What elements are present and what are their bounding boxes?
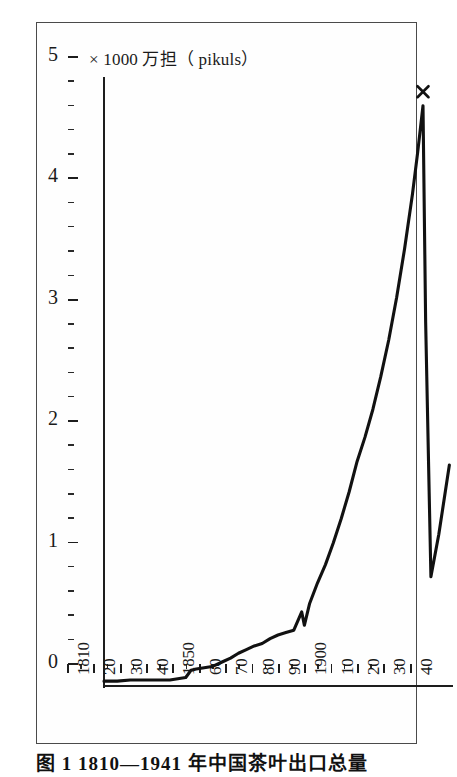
y-axis-minor-tick bbox=[68, 105, 74, 107]
y-axis-minor-tick bbox=[68, 80, 74, 82]
y-axis-minor-tick bbox=[68, 444, 74, 446]
chart-title: × 1000 万担（ pikuls） bbox=[89, 45, 259, 70]
y-axis-minor-tick bbox=[68, 614, 74, 616]
y-axis-major-tick bbox=[68, 542, 78, 544]
x-axis-line bbox=[103, 685, 453, 687]
x-axis-tick-label: 30 bbox=[127, 659, 147, 675]
data-series-line bbox=[104, 106, 449, 681]
x-axis-tick-label: 20 bbox=[364, 659, 384, 675]
y-axis-tick-label: 5 bbox=[28, 43, 58, 66]
y-axis-minor-tick bbox=[68, 202, 74, 204]
y-axis-minor-tick bbox=[68, 372, 74, 374]
annotation-markers bbox=[418, 86, 429, 97]
x-axis-tick-label: 60 bbox=[206, 659, 226, 675]
x-axis-tick-label: 40 bbox=[153, 659, 173, 675]
x-axis-tick-label: 40 bbox=[417, 659, 437, 675]
y-axis-minor-tick bbox=[68, 396, 74, 398]
x-axis-tick-label: 1850 bbox=[179, 642, 199, 675]
x-axis-tick-label: 20 bbox=[100, 659, 120, 675]
y-axis-tick-label: 2 bbox=[28, 407, 58, 430]
x-axis-tick-label: 80 bbox=[259, 659, 279, 675]
y-axis-major-tick bbox=[68, 420, 78, 422]
y-axis-minor-tick bbox=[68, 153, 74, 155]
y-axis-minor-tick bbox=[68, 129, 74, 131]
x-axis-tick-label: 1810 bbox=[74, 642, 94, 675]
y-axis-tick-label: 3 bbox=[28, 286, 58, 309]
y-axis-minor-tick bbox=[68, 469, 74, 471]
peak-marker-x-icon bbox=[418, 86, 429, 97]
figure-caption: 图 1 1810—1941 年中国茶叶出口总量 bbox=[36, 748, 432, 775]
y-axis-minor-tick bbox=[68, 323, 74, 325]
y-axis-minor-tick bbox=[68, 275, 74, 277]
y-axis-tick-label: 1 bbox=[28, 529, 58, 552]
y-axis-minor-tick bbox=[68, 639, 74, 641]
y-axis-minor-tick bbox=[68, 493, 74, 495]
y-axis-major-tick bbox=[68, 56, 78, 58]
y-axis-minor-tick bbox=[68, 347, 74, 349]
figure-frame: × 1000 万担（ pikuls） 012345 18102030401850… bbox=[36, 22, 417, 744]
y-axis-major-tick bbox=[68, 299, 78, 301]
x-axis-tick-label: 90 bbox=[285, 659, 305, 675]
y-axis-minor-tick bbox=[68, 566, 74, 568]
y-axis-minor-tick bbox=[68, 250, 74, 252]
x-axis-major-tick bbox=[67, 664, 69, 673]
y-axis-tick-label: 4 bbox=[28, 164, 58, 187]
y-axis-minor-tick bbox=[68, 226, 74, 228]
y-axis-major-tick bbox=[68, 177, 78, 179]
y-axis-minor-tick bbox=[68, 590, 74, 592]
y-axis-minor-tick bbox=[68, 517, 74, 519]
y-axis-line bbox=[103, 77, 105, 688]
x-axis-tick-label: 1900 bbox=[311, 642, 331, 675]
y-axis-tick-label: 0 bbox=[28, 650, 58, 673]
x-axis-tick-label: 10 bbox=[338, 659, 358, 675]
x-axis-major-tick bbox=[199, 664, 201, 673]
x-axis-tick-label: 70 bbox=[232, 659, 252, 675]
x-axis-tick-label: 30 bbox=[390, 659, 410, 675]
